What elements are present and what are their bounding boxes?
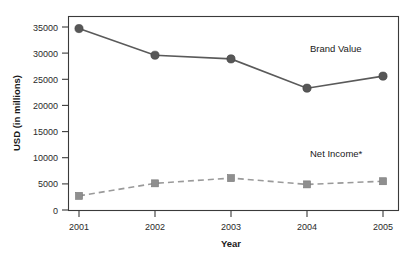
y-tick-label: 5000 xyxy=(38,179,58,189)
data-point xyxy=(228,175,235,182)
data-point xyxy=(380,178,387,185)
x-tick-label: 2002 xyxy=(145,222,165,232)
y-axis-title: USD (in millions) xyxy=(11,75,22,151)
y-tick-label: 25000 xyxy=(33,75,58,85)
x-tick-label: 2005 xyxy=(373,222,393,232)
y-tick-label: 30000 xyxy=(33,49,58,59)
data-point xyxy=(379,72,387,80)
y-tick-label: 0 xyxy=(53,206,58,216)
x-axis-title: Year xyxy=(221,238,241,249)
net-income-series-label: Net Income* xyxy=(310,148,363,159)
data-point xyxy=(227,55,235,63)
x-tick-label: 2001 xyxy=(69,222,89,232)
y-tick-label: 35000 xyxy=(33,23,58,33)
y-tick-label: 20000 xyxy=(33,101,58,111)
data-point xyxy=(75,24,83,32)
data-point xyxy=(304,181,311,188)
x-tick-label: 2003 xyxy=(221,222,241,232)
line-chart: 35000 30000 25000 20000 15000 10000 5000… xyxy=(0,0,417,260)
data-point xyxy=(152,180,159,187)
chart-svg: 35000 30000 25000 20000 15000 10000 5000… xyxy=(0,0,417,260)
data-point xyxy=(151,51,159,59)
y-tick-label: 15000 xyxy=(33,127,58,137)
y-tick-label: 10000 xyxy=(33,153,58,163)
data-point xyxy=(76,192,83,199)
brand-value-series-label: Brand Value xyxy=(310,43,362,54)
data-point xyxy=(303,84,311,92)
x-tick-label: 2004 xyxy=(297,222,317,232)
